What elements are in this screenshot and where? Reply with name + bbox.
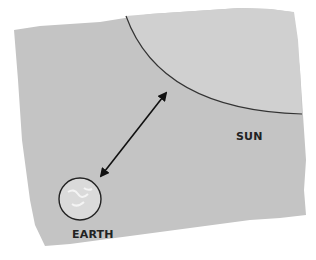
diagram-graphic bbox=[0, 0, 316, 260]
earth-label: EARTH bbox=[72, 228, 114, 241]
sun-earth-distance-diagram: SUN EARTH bbox=[0, 0, 316, 260]
sun-label: SUN bbox=[236, 130, 263, 143]
earth-globe bbox=[59, 178, 101, 220]
